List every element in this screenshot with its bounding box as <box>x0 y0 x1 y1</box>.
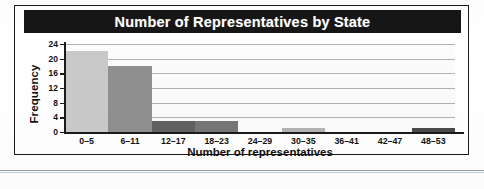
x-tick-label: 18–23 <box>195 136 238 146</box>
y-tick-mark <box>60 103 65 104</box>
x-tick-label: 6–11 <box>108 136 151 146</box>
x-tick-label: 36–41 <box>325 136 368 146</box>
x-tick-label: 12–17 <box>152 136 195 146</box>
x-axis-line <box>64 132 464 134</box>
bottom-rule <box>0 170 484 171</box>
y-tick-mark <box>60 88 65 89</box>
x-axis-label: Number of representatives <box>65 146 455 158</box>
bar <box>108 66 151 132</box>
y-tick-mark <box>60 117 65 118</box>
plot-area <box>65 44 455 132</box>
x-tick-label: 48–53 <box>412 136 455 146</box>
x-tick-label: 42–47 <box>368 136 411 146</box>
bar <box>195 121 238 132</box>
x-tick-label: 0–5 <box>65 136 108 146</box>
y-tick-mark <box>60 44 65 45</box>
y-tick-mark <box>60 59 65 60</box>
bottom-rule-shadow <box>0 172 484 173</box>
x-tick-label: 24–29 <box>238 136 281 146</box>
y-axis-label: Frequency <box>28 44 40 144</box>
bar <box>152 121 195 132</box>
y-tick-mark <box>60 73 65 74</box>
gridline <box>65 44 455 45</box>
plot-wrapper: 04812162024 Frequency 0–56–1112–1718–232… <box>0 0 484 189</box>
x-tick-label: 30–35 <box>282 136 325 146</box>
figure-container: Number of Representatives by State 04812… <box>0 0 484 189</box>
gridline <box>65 59 455 60</box>
y-tick-mark <box>60 132 65 133</box>
bar <box>65 51 108 132</box>
